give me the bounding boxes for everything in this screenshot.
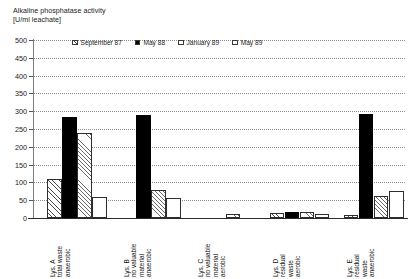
category-label-line: anaerobic [368,248,375,277]
y-axis-tick-label: 500 [1,36,27,45]
y-axis-tick-label: 250 [1,125,27,134]
chart-title: Alkaline phosphatase activity [13,7,106,16]
chart-subtitle: [U/ml leachate] [13,16,106,25]
bar-group [331,40,405,218]
bar[interactable] [344,215,359,218]
x-axis-category-label: Lys. Cno valuablematerialaerobic [197,220,255,278]
bar[interactable] [166,198,181,218]
bar[interactable] [92,197,107,218]
category-label-line: waste [286,254,293,277]
bar[interactable] [226,214,241,218]
category-label-line: waste [361,248,368,277]
category-label-line: Lys. E [346,248,353,277]
category-label-line: total waste [56,246,63,277]
bar[interactable] [47,179,62,218]
x-axis-category-labels: Lys. Atotal wasteanaerobicLys. Bno valua… [34,220,405,279]
y-axis-tick-label: 50 [1,196,27,205]
category-label-line: Lys. D [272,254,279,277]
x-axis-category-label: Lys. Dresidualwasteaerobic [272,220,330,278]
y-axis-tick-label: 100 [1,178,27,187]
y-axis-tick-label: 150 [1,161,27,170]
chart-container: Alkaline phosphatase activity [U/ml leac… [0,0,419,279]
bar[interactable] [77,133,92,218]
plot-area [34,40,405,218]
bar[interactable] [359,114,374,218]
y-axis-tick-label: 400 [1,72,27,81]
category-label-line: anaerobic [64,246,71,277]
bar[interactable] [151,190,166,218]
y-axis-tick-label: 350 [1,89,27,98]
bar[interactable] [62,117,77,218]
bar[interactable] [389,191,404,218]
x-axis-line [28,218,408,219]
bar[interactable] [315,214,330,218]
y-axis-tick-label: 450 [1,54,27,63]
bar[interactable] [374,196,389,218]
x-axis-category-label: Lys. Eresidualwasteanaerobic [346,220,404,278]
bar-group [34,40,108,218]
bar[interactable] [285,212,300,218]
category-label-line: aerobic [220,244,227,277]
x-axis-category-label: Lys. Bno valuablematerialanaerobic [123,220,181,278]
bar[interactable] [136,115,151,218]
chart-title-block: Alkaline phosphatase activity [U/ml leac… [13,7,106,26]
x-axis-category-label: Lys. Atotal wasteanaerobic [49,220,107,278]
y-axis-tick-label: 200 [1,143,27,152]
category-label-line: residual [353,248,360,277]
bar[interactable] [270,213,285,218]
category-label-line: anaerobic [145,244,152,277]
y-axis-tick-label: 300 [1,107,27,116]
category-label-line: aerobic [294,254,301,277]
bar-group [108,40,182,218]
category-label-line: Lys. A [49,246,56,277]
bar-group [257,40,331,218]
category-label-line: residual [279,254,286,277]
bar-group [182,40,256,218]
y-axis-tick-label: 0 [1,214,27,223]
bar[interactable] [300,212,315,218]
